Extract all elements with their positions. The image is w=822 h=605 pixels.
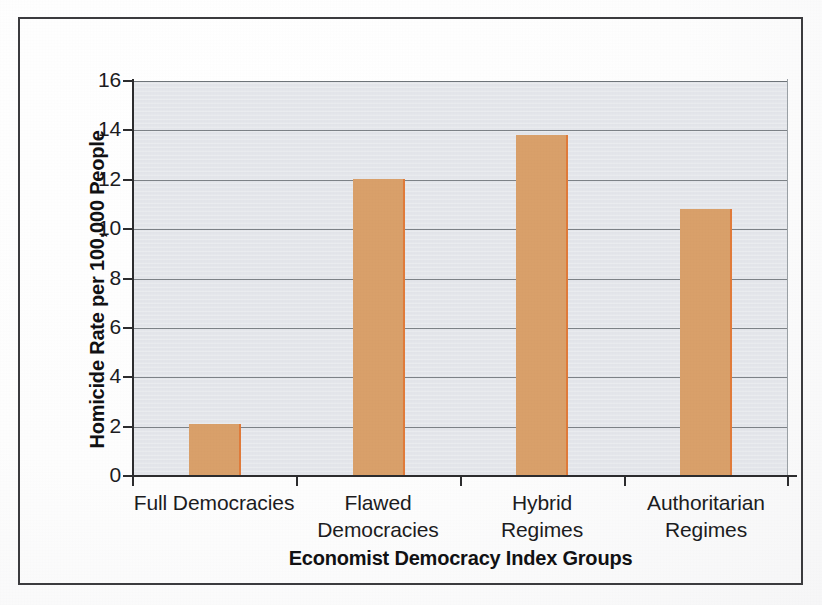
gridline-14 (133, 130, 788, 131)
figure-frame: 16 14 12 10 8 6 4 2 0 Full Democracies F… (18, 17, 803, 585)
x-category-label-line: Hybrid (452, 489, 632, 516)
y-tick-14 (123, 129, 133, 131)
plot-right-border (787, 79, 788, 478)
y-tick-12 (123, 179, 133, 181)
y-tick-6 (123, 327, 133, 329)
x-tick-4 (787, 475, 789, 486)
y-tick-16 (123, 80, 133, 82)
y-tick-label-16: 16 (75, 68, 121, 92)
gridline-16 (133, 81, 788, 82)
x-category-label-line: Regimes (616, 516, 796, 543)
x-category-label-authoritarian-regimes: AuthoritarianRegimes (616, 489, 796, 543)
x-category-label-line: Full Democracies (124, 489, 304, 516)
x-category-label-line: Regimes (452, 516, 632, 543)
x-category-label-line: Democracies (288, 516, 468, 543)
y-tick-8 (123, 278, 133, 280)
x-category-label-full-democracies: Full Democracies (124, 489, 304, 516)
gridline-12 (133, 180, 788, 181)
x-category-label-flawed-democracies: FlawedDemocracies (288, 489, 468, 543)
x-category-label-hybrid-regimes: HybridRegimes (452, 489, 632, 543)
x-axis-title: Economist Democracy Index Groups (133, 547, 788, 570)
x-tick-3 (624, 475, 626, 486)
bar-flawed-democracies[interactable] (353, 179, 405, 476)
y-tick-2 (123, 426, 133, 428)
scanned-page: 16 14 12 10 8 6 4 2 0 Full Democracies F… (0, 0, 822, 605)
plot-area (133, 81, 788, 476)
y-tick-4 (123, 376, 133, 378)
bar-full-democracies[interactable] (189, 424, 241, 476)
x-tick-0 (132, 475, 134, 486)
x-tick-2 (460, 475, 462, 486)
x-tick-1 (296, 475, 298, 486)
x-category-label-line: Authoritarian (616, 489, 796, 516)
bar-authoritarian-regimes[interactable] (680, 209, 732, 476)
y-tick-10 (123, 228, 133, 230)
x-category-label-line: Flawed (288, 489, 468, 516)
y-axis-title: Homicide Rate per 100,000 People (86, 90, 109, 490)
bar-hybrid-regimes[interactable] (516, 135, 568, 476)
